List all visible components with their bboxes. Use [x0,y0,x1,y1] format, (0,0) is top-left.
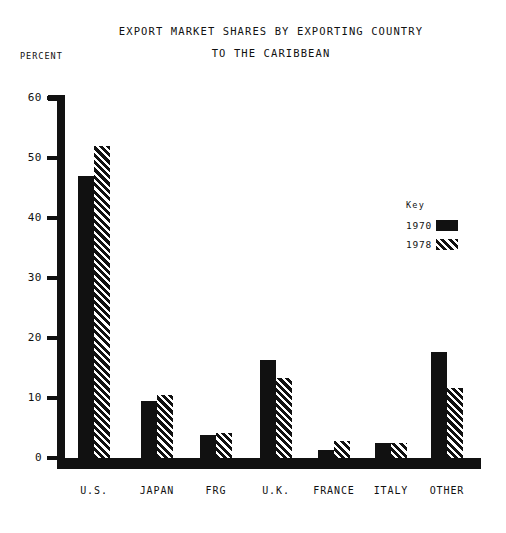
legend-entries: 19701978 [406,219,458,250]
bar-italy-1978 [391,443,407,458]
y-axis-tick-mark [47,216,58,220]
legend-swatch-solid [436,220,458,231]
y-axis-tick-label: 20 [8,331,42,344]
bar-france-1970 [318,450,334,458]
bar-us-1970 [78,176,94,458]
chart-container: Export Market Shares by Exporting Countr… [0,0,506,533]
y-axis-tick-label: 10 [8,391,42,404]
y-axis-tick-label: 50 [8,151,42,164]
bar-other-1978 [447,388,463,458]
legend-swatch-hatch [436,239,458,250]
y-axis-tick-mark [47,156,58,160]
y-axis-tick-label: 0 [8,451,42,464]
bar-us-1978 [94,146,110,458]
legend-entry-label: 1970 [406,220,432,231]
y-axis-tick-mark [47,336,58,340]
bar-other-1970 [431,352,447,458]
y-axis-tick-label: 30 [8,271,42,284]
x-axis [57,458,481,469]
legend: Key 19701978 [406,200,458,257]
bar-japan-1970 [141,401,157,458]
bar-italy-1970 [375,443,391,458]
y-axis-tick-mark [47,276,58,280]
bar-frg-1970 [200,435,216,458]
y-axis-tick-label: 60 [8,91,42,104]
y-axis [57,95,65,458]
bar-france-1978 [334,441,350,458]
y-axis-tick-label: 40 [8,211,42,224]
legend-heading: Key [406,200,458,210]
bar-uk-1970 [260,360,276,458]
y-axis-tick-mark [47,396,58,400]
legend-entry-label: 1978 [406,239,432,250]
plot-area: 0102030405060 U.S.JapanFRGU.K.FranceItal… [0,0,506,533]
bar-japan-1978 [157,395,173,458]
x-axis-label-other: Other [407,485,487,496]
y-axis-tick-mark [47,456,58,460]
bar-frg-1978 [216,433,232,458]
bar-uk-1978 [276,378,292,458]
y-axis-tick-mark [47,96,58,100]
legend-entry-1970: 1970 [406,219,458,231]
legend-entry-1978: 1978 [406,238,458,250]
